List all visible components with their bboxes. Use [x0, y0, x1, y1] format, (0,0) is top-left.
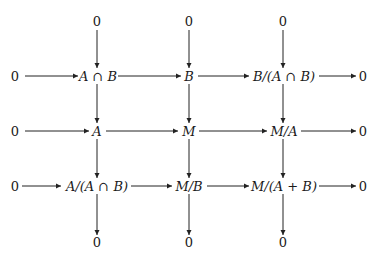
row2-right-zero: 0 — [359, 125, 367, 138]
row1-right-zero: 0 — [359, 70, 367, 83]
node-B-mod-A-cap-B: B/(A ∩ B) — [253, 70, 315, 83]
top-zero-col3: 0 — [279, 15, 287, 28]
bottom-zero-col1: 0 — [93, 236, 101, 249]
row1-left-zero: 0 — [11, 70, 19, 83]
node-A-cap-B: A ∩ B — [79, 70, 117, 83]
top-zero-col2: 0 — [185, 15, 193, 28]
node-M-mod-A-plus-B: M/(A + B) — [251, 180, 317, 193]
bottom-zero-col3: 0 — [279, 236, 287, 249]
bottom-zero-col2: 0 — [185, 236, 193, 249]
row2-left-zero: 0 — [11, 125, 19, 138]
row3-left-zero: 0 — [11, 180, 19, 193]
node-M-mod-B: M/B — [175, 180, 202, 193]
node-A-mod-A-cap-B: A/(A ∩ B) — [66, 180, 128, 193]
node-B: B — [184, 70, 194, 83]
node-M-mod-A: M/A — [270, 125, 297, 138]
node-M: M — [182, 125, 195, 138]
top-zero-col1: 0 — [93, 15, 101, 28]
commutative-diagram: 0 0 0 0 A ∩ B B B/(A ∩ B) 0 0 A M M/A 0 … — [0, 0, 379, 260]
node-A: A — [92, 125, 101, 138]
row3-right-zero: 0 — [359, 180, 367, 193]
